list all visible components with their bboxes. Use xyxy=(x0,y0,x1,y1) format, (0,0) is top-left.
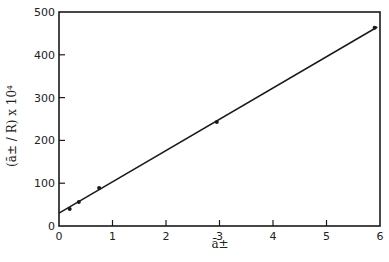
x-tick-label: 1 xyxy=(109,230,116,243)
x-tick-label: 5 xyxy=(323,230,330,243)
y-tick-label: 500 xyxy=(34,6,55,19)
x-tick-label: 0 xyxy=(56,230,63,243)
y-axis-title: (ā± / R) x 10⁴ xyxy=(5,85,19,167)
x-tick-label: 4 xyxy=(270,230,277,243)
x-tick-label: 2 xyxy=(163,230,170,243)
chart: 0123456 0100200300400500 ā± (ā± / R) x 1… xyxy=(0,0,389,262)
y-tick-label: 100 xyxy=(34,177,55,190)
y-axis-ticks: 0100200300400500 xyxy=(34,6,65,233)
y-tick-label: 200 xyxy=(34,134,55,147)
y-tick-label: 300 xyxy=(34,92,55,105)
x-axis-title: ā± xyxy=(211,237,228,251)
y-tick-label: 0 xyxy=(48,220,55,233)
fit-line xyxy=(59,27,377,213)
x-tick-label: 6 xyxy=(377,230,384,243)
data-series xyxy=(59,26,377,213)
y-tick-label: 400 xyxy=(34,49,55,62)
